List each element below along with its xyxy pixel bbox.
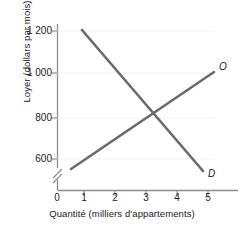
demand-curve-label: D (208, 168, 215, 179)
x-tick-label-4: 4 (165, 192, 189, 203)
supply-curve-label: O (219, 61, 227, 72)
y-tick-label-600: 600 (12, 153, 52, 164)
x-tick-label-1: 1 (72, 192, 96, 203)
y-axis-break-mark-upper (53, 169, 62, 178)
y-tick-label-800: 800 (12, 112, 52, 123)
x-tick-label-2: 2 (103, 192, 127, 203)
supply-curve (71, 72, 214, 169)
x-tick-label-5: 5 (196, 192, 220, 203)
x-tick-label-0: 0 (45, 192, 69, 203)
y-tick-label-1200: 1 200 (12, 25, 52, 36)
x-tick-label-3: 3 (134, 192, 158, 203)
chart-figure: Loyer (dollars par mois) Quantité (milli… (0, 0, 244, 226)
y-tick-label-1000: 1 000 (12, 67, 52, 78)
